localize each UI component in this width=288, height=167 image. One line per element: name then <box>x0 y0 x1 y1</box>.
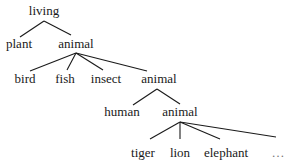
node-insect: insect <box>91 72 121 86</box>
node-tiger: tiger <box>131 146 155 160</box>
node-elephant: elephant <box>204 146 248 160</box>
edge-animal-human <box>133 89 157 105</box>
node-animal-level3: animal <box>162 105 197 119</box>
node-fish: fish <box>55 72 75 86</box>
node-human: human <box>104 105 139 119</box>
node-lion: lion <box>170 146 190 160</box>
node-ellipsis: … <box>272 146 285 160</box>
edge-animal-ellipsis <box>180 122 276 137</box>
edge-living-animal <box>44 21 71 35</box>
node-bird: bird <box>15 72 36 86</box>
node-plant: plant <box>6 37 32 51</box>
edge-animal-elephant <box>180 122 220 139</box>
edge-animal-bird <box>30 53 76 71</box>
edge-animal-animal2 <box>157 89 180 104</box>
edge-animal-tiger <box>150 122 180 139</box>
edge-animal-animal <box>76 53 147 71</box>
edge-animal-insect <box>76 53 103 70</box>
node-animal-level2: animal <box>141 72 176 86</box>
node-animal-level1: animal <box>58 37 93 51</box>
node-living: living <box>29 4 59 18</box>
taxonomy-tree: living plant animal bird fish insect ani… <box>0 0 288 167</box>
edge-living-plant <box>20 21 44 37</box>
